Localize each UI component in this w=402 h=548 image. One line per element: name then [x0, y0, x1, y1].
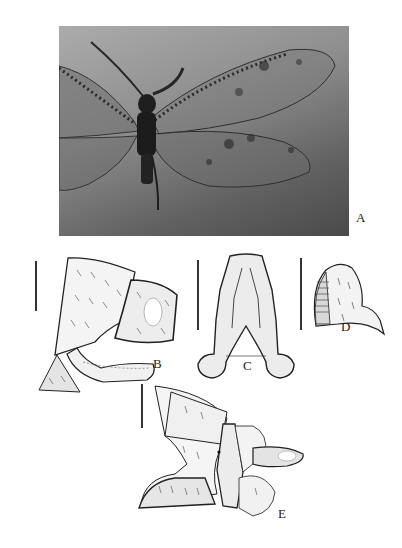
- panel-a-photo: [59, 26, 349, 236]
- panel-e-label: E: [278, 507, 286, 520]
- panel-b-drawing: [25, 250, 185, 400]
- panel-e-drawing: [135, 382, 315, 532]
- panel-a-label: A: [356, 211, 365, 224]
- panel-d-scale-bar: [300, 258, 302, 330]
- panel-b-label: B: [153, 357, 162, 370]
- panel-d-label: D: [341, 320, 350, 333]
- insect-habitus-illustration: [59, 26, 349, 236]
- figure-plate: A B C D: [0, 0, 402, 548]
- panel-c-label: C: [243, 359, 252, 372]
